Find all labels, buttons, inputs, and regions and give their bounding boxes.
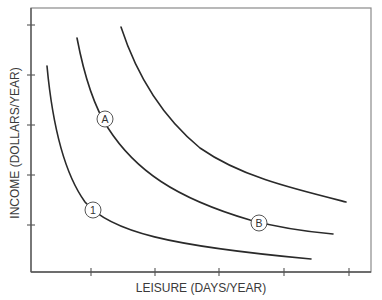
indifference-curve-3	[121, 27, 346, 202]
indifference-curve-1	[47, 66, 311, 259]
point-b-label: B	[255, 217, 262, 229]
indifference-curve-chart: A B 1 LEISURE (DAYS/YEAR) INCOME (DOLLAR…	[0, 0, 382, 300]
curve-1-label: 1	[90, 204, 96, 216]
curve-1-marker: 1	[85, 202, 101, 218]
point-b-marker: B	[251, 215, 267, 231]
point-a-marker: A	[97, 111, 113, 127]
indifference-curve-2	[77, 38, 333, 234]
point-a-label: A	[101, 113, 108, 125]
x-axis-label: LEISURE (DAYS/YEAR)	[136, 281, 266, 295]
y-axis-label: INCOME (DOLLARS/YEAR)	[8, 67, 22, 218]
